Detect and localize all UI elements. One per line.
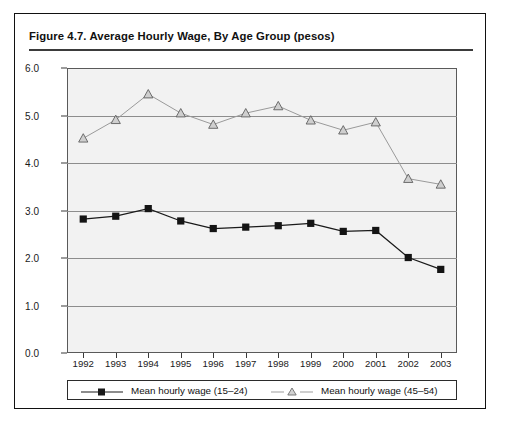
data-point-square-icon: [177, 217, 184, 224]
x-axis-tick-mark: [343, 353, 344, 358]
data-point-square-icon: [307, 220, 314, 227]
legend-label-15-24: Mean hourly wage (15–24): [131, 385, 248, 396]
series-line: [83, 209, 441, 270]
legend-label-45-54: Mean hourly wage (45–54): [321, 385, 438, 396]
x-axis-tick-mark: [181, 353, 182, 358]
legend-item-45-54: Mean hourly wage (45–54): [270, 381, 438, 399]
data-point-square-icon: [275, 222, 282, 229]
legend: Mean hourly wage (15–24) Mean hourly wag…: [67, 380, 457, 400]
data-point-square-icon: [210, 225, 217, 232]
x-axis-tick-mark: [246, 353, 247, 358]
data-point-square-icon: [112, 213, 119, 220]
data-point-triangle-icon: [111, 115, 120, 123]
y-axis-tick-label: 3.0: [0, 205, 39, 216]
x-axis-tick-mark: [278, 353, 279, 358]
data-point-square-icon: [145, 205, 152, 212]
y-axis-tick-label: 5.0: [0, 110, 39, 121]
y-axis-tick-label: 2.0: [0, 253, 39, 264]
series-layer: [67, 68, 457, 353]
legend-swatch-triangle-icon: [270, 384, 314, 396]
x-axis-tick-mark: [376, 353, 377, 358]
data-point-triangle-icon: [79, 134, 88, 142]
data-point-triangle-icon: [144, 90, 153, 98]
data-point-square-icon: [80, 215, 87, 222]
data-point-square-icon: [242, 224, 249, 231]
data-point-triangle-icon: [176, 109, 185, 117]
legend-swatch-square-icon: [80, 384, 124, 396]
x-axis-tick-mark: [408, 353, 409, 358]
y-axis-tick-label: 6.0: [0, 63, 39, 74]
y-axis-tick-label: 4.0: [0, 158, 39, 169]
x-axis-tick-label: 2003: [421, 358, 461, 369]
y-axis-tick-label: 0.0: [0, 348, 39, 359]
chart: 0.01.02.03.04.05.06.0 199219931994199519…: [15, 14, 487, 410]
data-point-triangle-icon: [404, 174, 413, 182]
x-axis-tick-mark: [83, 353, 84, 358]
series-45-54: [79, 90, 446, 189]
y-axis-tick-label: 1.0: [0, 300, 39, 311]
x-axis-tick-mark: [213, 353, 214, 358]
x-axis-tick-mark: [311, 353, 312, 358]
data-point-triangle-icon: [209, 120, 218, 128]
x-axis-tick-mark: [441, 353, 442, 358]
data-point-square-icon: [437, 266, 444, 273]
data-point-square-icon: [372, 227, 379, 234]
data-point-square-icon: [405, 254, 412, 261]
legend-item-15-24: Mean hourly wage (15–24): [80, 381, 248, 399]
figure-panel: Figure 4.7. Average Hourly Wage, By Age …: [14, 13, 486, 409]
data-point-triangle-icon: [371, 118, 380, 126]
data-point-square-icon: [340, 228, 347, 235]
series-15-24: [80, 205, 445, 273]
x-axis-tick-mark: [148, 353, 149, 358]
series-line: [83, 94, 441, 184]
data-point-triangle-icon: [306, 116, 315, 124]
x-axis-tick-mark: [116, 353, 117, 358]
data-point-triangle-icon: [274, 101, 283, 109]
